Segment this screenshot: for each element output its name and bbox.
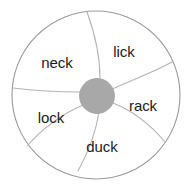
segment-label-lick: lick — [113, 44, 134, 59]
wheel-graphic — [0, 0, 192, 187]
segment-label-lock: lock — [38, 110, 64, 125]
wheel-center-hub — [80, 79, 115, 114]
word-wheel-diagram: lick rack duck lock neck — [0, 0, 192, 187]
segment-label-neck: neck — [41, 55, 72, 70]
segment-label-duck: duck — [86, 139, 117, 154]
segment-label-rack: rack — [129, 98, 157, 113]
